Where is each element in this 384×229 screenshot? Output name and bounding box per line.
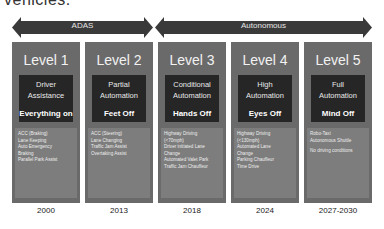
level-tag: Hands Off	[165, 109, 219, 118]
feature-panel: Highway Driving (<130mph) Automated Lane…	[234, 128, 296, 198]
level-1-column: Level 1 Driver Assistance Everything on …	[12, 42, 80, 203]
level-name-line: Automation	[92, 90, 146, 101]
level-name-line: Driver	[19, 79, 73, 90]
level-title: Level 5	[304, 52, 372, 68]
feature-panel: Robo-Taxi Autonomous Shuttle No driving …	[307, 128, 369, 198]
level-title: Level 4	[231, 52, 299, 68]
level-title: Level 2	[85, 52, 153, 68]
year-label: 2024	[231, 206, 299, 215]
level-tag: Mind Off	[311, 109, 365, 118]
feature-item: Traffic Jam Chauffeur	[161, 164, 223, 171]
year-label: 2013	[85, 206, 153, 215]
adas-arrow: ADAS	[12, 17, 153, 38]
feature-item: No driving conditions	[307, 148, 369, 155]
year-label: 2018	[158, 206, 226, 215]
autonomous-label: Autonomous	[155, 21, 372, 30]
level-name: High Automation	[238, 79, 292, 101]
level-box: Full Automation Mind Off	[311, 75, 365, 122]
level-name: Conditional Automation	[165, 79, 219, 101]
level-name-line: Conditional	[165, 79, 219, 90]
level-name-line: Automation	[165, 90, 219, 101]
feature-panel: ACC (Braking) Lane Keeping Auto Emergenc…	[15, 128, 77, 198]
level-box: Driver Assistance Everything on	[19, 75, 73, 122]
level-name-line: Automation	[238, 90, 292, 101]
feature-item: Overtaking Assist	[88, 151, 150, 158]
level-name: Partial Automation	[92, 79, 146, 101]
level-name-line: Automation	[311, 90, 365, 101]
header-text: vehicles.	[4, 0, 71, 9]
level-name-line: Partial	[92, 79, 146, 90]
year-label: 2027-2030	[304, 206, 372, 215]
level-box: Conditional Automation Hands Off	[165, 75, 219, 122]
level-name-line: High	[238, 79, 292, 90]
level-title: Level 3	[158, 52, 226, 68]
autonomous-arrow: Autonomous	[155, 17, 372, 38]
level-name: Full Automation	[311, 79, 365, 101]
feature-panel: Highway Driving (<70mph) Driver initiate…	[161, 128, 223, 198]
feature-panel: ACC (Steering) Lane Changing Traffic Jam…	[88, 128, 150, 198]
level-2-column: Level 2 Partial Automation Feet Off ACC …	[85, 42, 153, 203]
year-label: 2000	[12, 206, 80, 215]
level-box: Partial Automation Feet Off	[92, 75, 146, 122]
level-tag: Feet Off	[92, 109, 146, 118]
level-4-column: Level 4 High Automation Eyes Off Highway…	[231, 42, 299, 203]
feature-item: Parallel Park Assist	[15, 157, 77, 164]
level-name-line: Full	[311, 79, 365, 90]
feature-item: Time Drive	[234, 164, 296, 171]
level-tag: Eyes Off	[238, 109, 292, 118]
level-3-column: Level 3 Conditional Automation Hands Off…	[158, 42, 226, 203]
level-5-column: Level 5 Full Automation Mind Off Robo-Ta…	[304, 42, 372, 203]
level-name: Driver Assistance	[19, 79, 73, 101]
level-box: High Automation Eyes Off	[238, 75, 292, 122]
level-name-line: Assistance	[19, 90, 73, 101]
level-title: Level 1	[12, 52, 80, 68]
adas-label: ADAS	[12, 21, 153, 30]
level-tag: Everything on	[19, 109, 73, 118]
